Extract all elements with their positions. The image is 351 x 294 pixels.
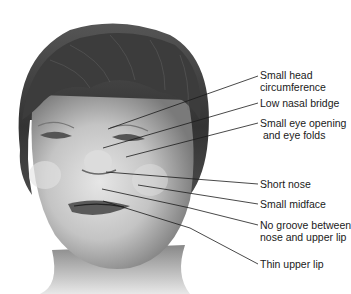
label-no-groove: No groove between nose and upper lip — [260, 219, 351, 243]
nose — [84, 150, 112, 174]
label-thin-upper-lip: Thin upper lip — [260, 258, 324, 270]
label-short-nose: Short nose — [260, 178, 311, 190]
label-small-head-circumference: Small head circumference — [260, 69, 326, 93]
label-small-eye-opening: Small eye opening and eye folds — [260, 117, 346, 141]
label-low-nasal-bridge: Low nasal bridge — [260, 97, 339, 109]
label-small-midface: Small midface — [260, 198, 326, 210]
